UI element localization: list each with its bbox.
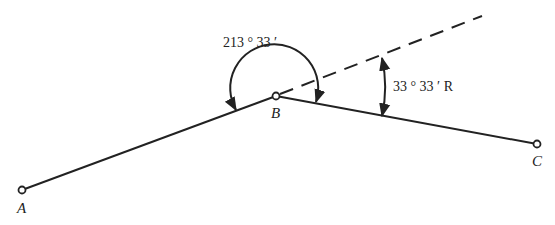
deflection-angle-diagram: A B C 213 ° 33 ′ 33 ° 33 ′ R — [0, 0, 555, 225]
line-bc — [276, 96, 537, 144]
point-c-marker — [534, 141, 541, 148]
point-a-label: A — [16, 200, 27, 216]
line-ab — [22, 96, 276, 190]
point-b-marker — [273, 93, 280, 100]
deflection-arc — [382, 58, 385, 116]
deflection-angle-label: 33 ° 33 ′ R — [393, 79, 454, 94]
point-b-label: B — [271, 105, 280, 121]
point-c-label: C — [532, 153, 543, 169]
angle-arc-213 — [230, 44, 318, 110]
angle-213-label: 213 ° 33 ′ — [223, 35, 277, 50]
point-a-marker — [19, 187, 26, 194]
